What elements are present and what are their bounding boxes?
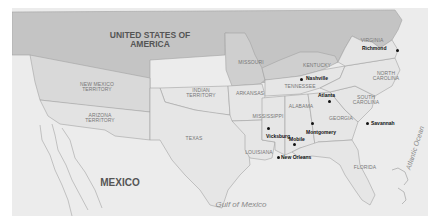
label-florida: FLORIDA xyxy=(354,165,376,170)
label-louisiana: LOUISIANA xyxy=(245,150,273,155)
label-mississippi: MISSISSIPPI xyxy=(253,114,284,119)
city-marker-mobile[interactable] xyxy=(293,143,296,146)
city-label-montgomery: Montgomery xyxy=(306,129,336,135)
label-arkansas: ARKANSAS xyxy=(236,91,264,96)
city-marker-richmond[interactable] xyxy=(396,49,399,52)
label-north-carolina: NORTH CAROLINA xyxy=(373,71,399,82)
label-tennessee: TENNESSEE xyxy=(284,84,315,89)
city-label-new-orleans: New Orleans xyxy=(281,154,311,160)
city-label-mobile: Mobile xyxy=(289,136,305,142)
label-alabama: ALABAMA xyxy=(289,104,313,109)
city-marker-nashville[interactable] xyxy=(300,78,303,81)
city-label-atlanta: Atlanta xyxy=(318,92,335,98)
city-marker-atlanta[interactable] xyxy=(328,100,331,103)
label-south-carolina: SOUTH CAROLINA xyxy=(353,95,379,106)
label-arizona: ARIZONA TERRITORY xyxy=(85,113,115,124)
city-label-savannah: Savannah xyxy=(371,120,395,126)
label-kentucky: KENTUCKY xyxy=(303,63,331,68)
map-frame: UNITED STATES OF AMERICA MEXICO NEW MEXI… xyxy=(12,8,428,216)
city-marker-new-orleans[interactable] xyxy=(277,156,280,159)
label-virginia: VIRGINIA xyxy=(361,38,384,43)
label-indian: INDIAN TERRITORY xyxy=(186,88,216,99)
label-mexico: MEXICO xyxy=(100,178,139,189)
label-gulf-of-mexico: Gulf of Mexico xyxy=(215,201,266,209)
city-marker-montgomery[interactable] xyxy=(311,122,314,125)
label-new-mexico: NEW MEXICO TERRITORY xyxy=(80,82,114,93)
label-texas: TEXAS xyxy=(186,136,203,141)
city-label-richmond: Richmond xyxy=(362,45,386,51)
city-marker-savannah[interactable] xyxy=(366,122,369,125)
city-marker-vicksburg[interactable] xyxy=(267,127,270,130)
city-label-vicksburg: Vicksburg xyxy=(266,133,290,139)
label-usa: UNITED STATES OF AMERICA xyxy=(110,31,190,49)
label-georgia: GEORGIA xyxy=(329,116,353,121)
label-missouri: MISSOURI xyxy=(238,60,264,65)
city-label-nashville: Nashville xyxy=(306,75,328,81)
